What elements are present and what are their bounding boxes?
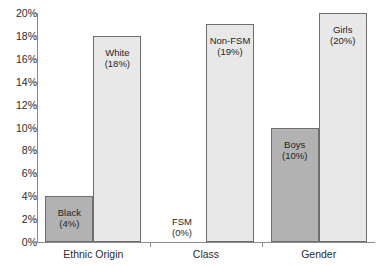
x-axis-category-label: Gender [262, 248, 375, 260]
x-axis-category-label: Ethnic Origin [37, 248, 150, 260]
y-axis-tick-label: 12% [3, 100, 37, 111]
y-axis-tick-label: 18% [3, 31, 37, 42]
y-axis-tick-label: 20% [3, 8, 37, 19]
y-axis-tick-label: 0% [3, 237, 37, 248]
y-axis-tick-label: 8% [3, 145, 37, 156]
x-axis-tick-mark [150, 243, 151, 247]
y-axis-tick-label: 10% [3, 123, 37, 134]
y-axis-tick-label: 6% [3, 168, 37, 179]
y-axis-ticks: 0%2%4%6%8%10%12%14%16%18%20% [0, 0, 37, 266]
bar-black [45, 196, 93, 242]
y-axis-tick-label: 14% [3, 77, 37, 88]
plot-area [37, 13, 375, 242]
bar-non-fsm [206, 24, 254, 242]
x-axis-tick-mark [262, 243, 263, 247]
bar-chart: 0%2%4%6%8%10%12%14%16%18%20% Ethnic Orig… [0, 0, 383, 266]
y-axis-tick-label: 4% [3, 191, 37, 202]
x-axis-category-label: Class [150, 248, 263, 260]
bar-girls [319, 13, 367, 242]
x-axis-line [37, 242, 375, 243]
y-axis-tick-label: 2% [3, 214, 37, 225]
bar-white [93, 36, 141, 242]
y-axis-tick-label: 16% [3, 54, 37, 65]
bar-boys [271, 128, 319, 243]
